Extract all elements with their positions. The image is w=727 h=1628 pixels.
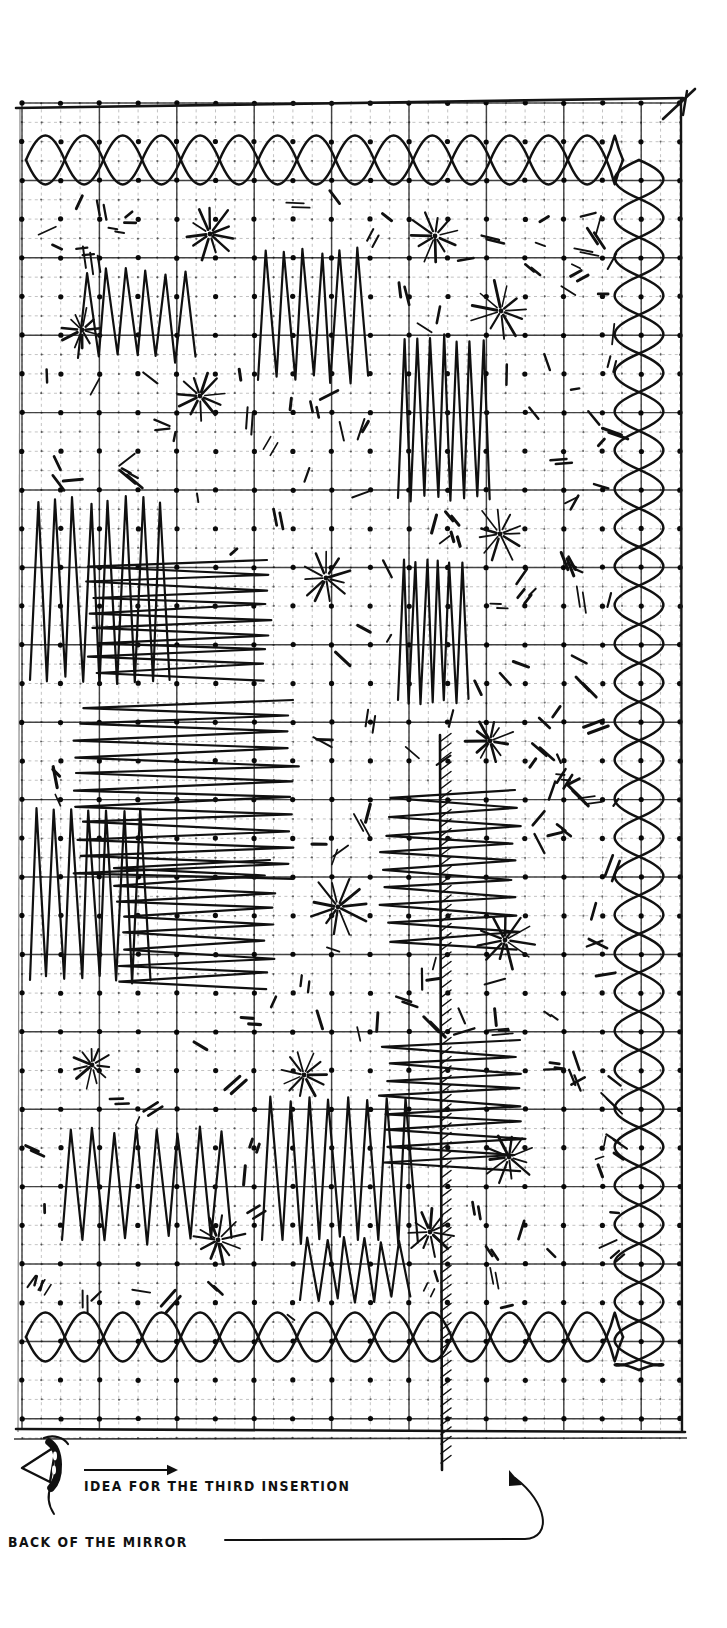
pattern-sheet bbox=[0, 0, 727, 1628]
paper-background bbox=[0, 0, 727, 1628]
